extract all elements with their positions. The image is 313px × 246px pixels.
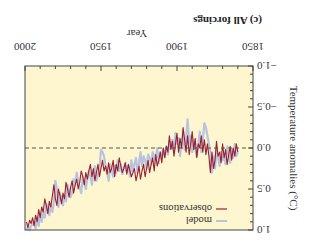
chart-figure: 1850190019502000 −1.0−0.50.00.51.0 Year …: [0, 0, 313, 246]
y-tick-label: −0.5: [257, 101, 277, 113]
y-tick-label: 0.5: [257, 183, 271, 195]
legend-observations-label: observations: [159, 203, 212, 214]
y-tick-label: 1.0: [257, 224, 271, 236]
x-tick-label: 1950: [90, 41, 113, 53]
legend-model-label: model: [186, 215, 212, 226]
x-tick-label: 1900: [166, 41, 189, 53]
y-tick-label: −1.0: [257, 60, 277, 72]
y-tick-label: 0.0: [257, 142, 271, 154]
x-tick-label: 2000: [14, 41, 37, 53]
x-axis-label: Year: [127, 28, 148, 40]
temperature-chart: 1850190019502000 −1.0−0.50.00.51.0 Year …: [0, 0, 313, 246]
x-tick-label: 1850: [242, 41, 265, 53]
chart-stage: 1850190019502000 −1.0−0.50.00.51.0 Year …: [0, 0, 313, 246]
y-axis-label: Temperature anomalies (°C): [287, 86, 300, 211]
chart-title: (c) All forcings: [192, 14, 262, 27]
